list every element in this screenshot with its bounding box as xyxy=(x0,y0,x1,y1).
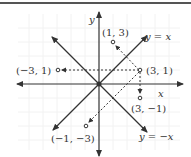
point-3-1 xyxy=(138,68,142,72)
label-point-neg3-1: (−3, 1) xyxy=(16,65,51,76)
x-axis-label: x xyxy=(158,88,164,99)
point-neg1-neg3 xyxy=(84,124,88,128)
origin-point xyxy=(97,82,102,87)
line-y-equals-neg-x-neg xyxy=(52,37,99,84)
label-point-3-1: (3, 1) xyxy=(146,65,173,76)
label-point-1-3: (1, 3) xyxy=(102,27,129,38)
label-y-equals-neg-x: y = −x xyxy=(138,131,174,142)
label-point-3-neg1: (3, −1) xyxy=(131,103,166,114)
point-1-3 xyxy=(111,40,115,44)
line-y-equals-x-neg xyxy=(53,84,99,130)
label-y-equals-x: y = x xyxy=(144,31,171,42)
y-axis-label: y xyxy=(88,14,95,25)
coordinate-plane: y x y = x y = −x (3, 1) (1, 3) (−3, 1) (… xyxy=(0,0,191,157)
diagram-frame: y x y = x y = −x (3, 1) (1, 3) (−3, 1) (… xyxy=(0,0,191,157)
point-neg3-1 xyxy=(56,68,60,72)
point-3-neg1 xyxy=(138,96,142,100)
label-point-neg1-neg3: (−1, −3) xyxy=(51,133,95,144)
